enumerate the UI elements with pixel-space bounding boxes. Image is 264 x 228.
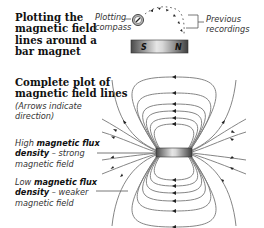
main-bar-magnet [156,148,192,157]
top-bar-magnet: S N [131,40,188,53]
compass-icon [133,15,144,26]
recordings-bracket [186,15,204,28]
south-pole-label: S [141,43,147,52]
recording-dots [145,7,184,34]
diagram-canvas: S N [0,0,264,228]
north-pole-label: N [175,43,182,52]
